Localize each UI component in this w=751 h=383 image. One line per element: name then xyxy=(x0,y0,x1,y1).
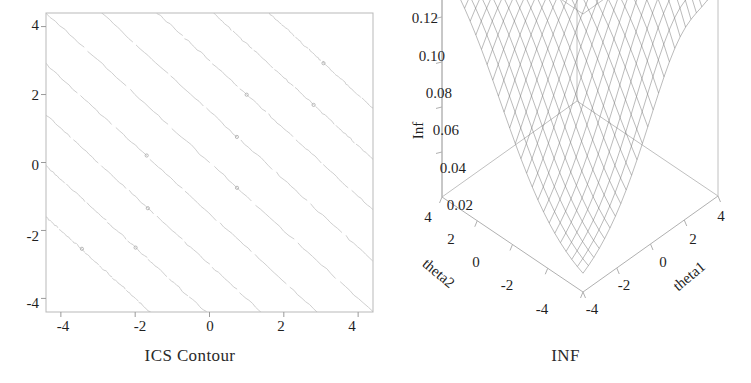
contour-ytick-1: 2 xyxy=(32,87,40,104)
theta1-axis-tick xyxy=(617,268,620,274)
mesh-line-theta2 xyxy=(493,0,628,80)
surface-theta2-tick-3: -2 xyxy=(501,277,514,294)
contour-ytick-3: -2 xyxy=(27,228,40,245)
surface-ztick-1: 0.10 xyxy=(419,48,445,65)
mesh-line-theta1 xyxy=(528,0,669,62)
mesh-line-theta2 xyxy=(560,0,695,243)
contour-xtick-4: 4 xyxy=(348,318,356,335)
mesh-line-theta1 xyxy=(561,0,702,7)
mesh-line-theta1 xyxy=(458,0,599,248)
mesh-line-theta2 xyxy=(566,0,701,251)
contour-lines xyxy=(46,13,374,313)
surface-caption: INF xyxy=(380,346,751,366)
mesh-line-theta2 xyxy=(487,0,622,65)
mesh-line-theta2 xyxy=(498,0,633,96)
theta2-axis-tick xyxy=(545,268,548,274)
theta1-axis-tick xyxy=(718,196,721,202)
surface-theta2-tick-2: 0 xyxy=(472,254,480,271)
z-axis-tick xyxy=(436,152,442,154)
z-axis-tick xyxy=(436,107,442,109)
contour-xtick-2: 0 xyxy=(206,318,214,335)
surface-theta1-tick-0: -4 xyxy=(586,301,599,318)
contour-line xyxy=(46,115,262,312)
surface-theta1-tick-3: 2 xyxy=(689,231,697,248)
mesh-line-theta2 xyxy=(577,0,712,267)
contour-caption: ICS Contour xyxy=(0,346,380,366)
figure-root: -4 -2 0 2 4 4 2 0 -2 -4 ICS Contour 0.12… xyxy=(0,0,751,383)
theta1-axis-tick xyxy=(684,220,687,226)
mesh-line-theta2 xyxy=(521,0,656,159)
contour-plot-svg xyxy=(0,0,380,340)
contour-line xyxy=(269,13,373,109)
surface-theta1-tick-4: 4 xyxy=(717,208,725,225)
surface-ztick-0: 0.12 xyxy=(412,10,438,27)
theta2-axis-tick xyxy=(440,197,443,203)
surface-theta2-tick-4: -4 xyxy=(536,301,549,318)
contour-line xyxy=(102,13,373,261)
surface-wireframe-mesh xyxy=(442,0,718,273)
surface-theta1-tick-1: -2 xyxy=(618,277,631,294)
mesh-line-theta1 xyxy=(496,0,637,160)
contour-ytick-2: 0 xyxy=(32,157,40,174)
surface-ztick-4: 0.04 xyxy=(440,160,466,177)
theta1-axis-tick xyxy=(651,244,654,250)
surface-panel: 0.12 0.10 0.08 0.06 0.04 0.02 Inf 4 2 0 … xyxy=(380,0,751,383)
surface-box-frame xyxy=(442,0,718,197)
mesh-line-theta1 xyxy=(469,0,610,228)
mesh-line-theta1 xyxy=(474,0,615,216)
surface-theta2-tick-1: 2 xyxy=(447,231,455,248)
surface-theta2-tick-0: 4 xyxy=(424,209,432,226)
surface-ztick-2: 0.08 xyxy=(426,85,452,102)
mesh-line-theta1 xyxy=(464,0,605,239)
contour-xtick-0: -4 xyxy=(57,318,70,335)
surface-ztick-5: 0.02 xyxy=(447,197,473,214)
box-bottom-edge-back-left xyxy=(442,101,577,197)
contour-ytick-0: 4 xyxy=(32,17,40,34)
theta1-axis-tick xyxy=(583,292,586,298)
theta2-axis-tick xyxy=(475,221,478,227)
contour-line xyxy=(46,13,373,311)
theta2-axis-tick xyxy=(510,245,513,251)
contour-line xyxy=(157,14,373,210)
contour-line xyxy=(47,64,318,312)
mesh-line-theta2 xyxy=(572,0,707,259)
theta2-axis-tick xyxy=(581,292,584,298)
contour-xtick-1: -2 xyxy=(134,318,147,335)
mesh-line-theta1 xyxy=(518,0,659,93)
contour-xtick-3: 2 xyxy=(277,318,285,335)
contour-panel: -4 -2 0 2 4 4 2 0 -2 -4 ICS Contour xyxy=(0,0,380,383)
mesh-line-theta2 xyxy=(549,0,684,223)
surface-theta1-tick-2: 0 xyxy=(659,254,667,271)
surface-z-axis-title: Inf xyxy=(410,122,427,140)
contour-line xyxy=(46,217,150,312)
mesh-line-theta1 xyxy=(512,0,653,110)
mesh-line-theta2 xyxy=(555,0,690,233)
surface-ztick-3: 0.06 xyxy=(433,122,459,139)
contour-ytick-4: -4 xyxy=(27,295,40,312)
contour-axis-ticks xyxy=(41,27,358,317)
mesh-line-theta1 xyxy=(480,0,621,204)
